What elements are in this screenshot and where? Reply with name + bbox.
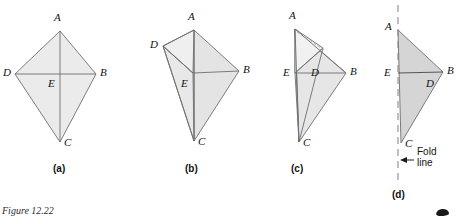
geometry-figure-canvas [0, 0, 456, 219]
panel-d-vertex-label-B: B [447, 64, 454, 76]
panel-b-vertex-label-C: C [198, 135, 205, 147]
panel-a-caption: (a) [53, 163, 65, 174]
panel-a-vertex-label-E: E [48, 77, 55, 89]
panel-c-diagram [295, 29, 346, 142]
panel-c-vertex-label-C: C [303, 136, 310, 148]
fold-line-annotation-line2: line [417, 157, 433, 168]
panel-d-vertex-label-D: D [426, 77, 434, 89]
panel-a-diagram [15, 31, 96, 142]
panel-c-vertex-label-D: D [311, 66, 319, 78]
panel-c-vertex-label-B: B [350, 65, 357, 77]
panel-a-vertex-label-B: B [100, 66, 107, 78]
panel-b-vertex-label-D: D [150, 38, 158, 50]
panel-b-body-abce [194, 30, 239, 141]
panel-a-vertex-label-D: D [3, 66, 11, 78]
panel-d-vertex-label-C: C [405, 137, 412, 149]
panel-c-vertex-label-E: E [283, 66, 290, 78]
panel-b-caption: (b) [185, 163, 198, 174]
panel-a-vertex-label-C: C [64, 136, 71, 148]
panel-a-vertex-label-A: A [54, 11, 61, 23]
panel-a-kite-shape [15, 31, 96, 142]
panel-d-vertex-label-E: E [384, 66, 391, 78]
panel-d-caption: (d) [392, 189, 405, 200]
panel-b-vertex-label-E: E [181, 77, 188, 89]
panel-c-caption: (c) [291, 163, 303, 174]
panel-c-vertex-label-A: A [289, 9, 296, 21]
panel-d-triangle-abc [398, 30, 443, 143]
panel-b-diagram [163, 30, 239, 141]
figure-caption: Figure 12.22 [2, 205, 54, 216]
panel-d-vertex-label-A: A [385, 20, 392, 32]
panel-d-fold-arrow-head [400, 157, 407, 163]
panel-b-vertex-label-A: A [188, 10, 195, 22]
panel-b-vertex-label-B: B [243, 63, 250, 75]
fold-line-annotation-line1: Fold [417, 146, 436, 157]
